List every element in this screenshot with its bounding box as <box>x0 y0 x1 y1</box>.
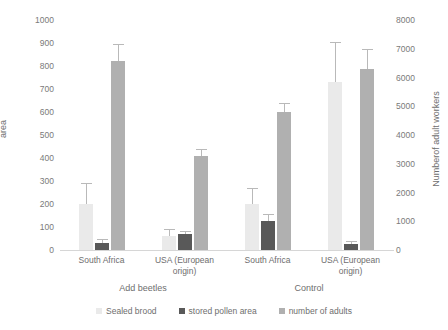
x-category-label: USA (European origin) <box>143 255 227 276</box>
legend-swatch-icon <box>96 308 102 314</box>
x-category-label: USA (European origin) <box>309 255 393 276</box>
y-tick-right: 6000 <box>396 74 415 83</box>
error-bar-cap <box>113 44 124 45</box>
error-bar <box>185 232 186 234</box>
legend-label: stored pollen area <box>189 306 257 316</box>
error-bar <box>169 230 170 236</box>
error-bar-cap <box>97 239 108 240</box>
bar <box>277 112 291 250</box>
bar <box>79 204 93 250</box>
error-bar <box>252 189 253 204</box>
y-tick-left: 800 <box>40 62 54 71</box>
error-bar <box>201 150 202 156</box>
bar <box>261 221 275 250</box>
x-group-label: Add beetles <box>83 283 203 293</box>
chart-legend: Sealed broodstored pollen areanumber of … <box>0 306 448 316</box>
error-bar-cap <box>164 229 175 230</box>
y-tick-left: 100 <box>40 223 54 232</box>
y-tick-right: 7000 <box>396 45 415 54</box>
bar <box>162 236 176 250</box>
bar-chart: area Numberof adult workers 010020030040… <box>0 0 448 330</box>
y-tick-right: 1000 <box>396 217 415 226</box>
legend-item[interactable]: number of adults <box>279 306 352 316</box>
error-bar <box>367 50 368 70</box>
bar-group <box>143 20 226 250</box>
y-tick-right: 8000 <box>396 16 415 25</box>
y-tick-right: 5000 <box>396 102 415 111</box>
x-category-label: South Africa <box>60 255 144 266</box>
legend-swatch-icon <box>179 308 185 314</box>
error-bar <box>118 45 119 61</box>
error-bar-cap <box>196 149 207 150</box>
y-axis-left-title: area <box>0 120 8 138</box>
error-bar-cap <box>346 241 357 242</box>
x-group-label: Control <box>249 283 369 293</box>
y-tick-left: 1000 <box>35 16 54 25</box>
bar-group <box>309 20 392 250</box>
bar <box>194 156 208 250</box>
error-bar-cap <box>81 183 92 184</box>
error-bar-cap <box>263 214 274 215</box>
y-axis-left-ticks: 01002003004005006007008009001000 <box>14 0 54 330</box>
bar-group <box>226 20 309 250</box>
error-bar <box>268 215 269 221</box>
y-tick-left: 500 <box>40 131 54 140</box>
y-tick-left: 200 <box>40 200 54 209</box>
y-axis-right-ticks: 010002000300040005000600070008000 <box>396 0 440 330</box>
legend-item[interactable]: stored pollen area <box>179 306 257 316</box>
y-tick-left: 600 <box>40 108 54 117</box>
plot-area <box>60 20 392 250</box>
y-tick-right: 2000 <box>396 189 415 198</box>
y-tick-left: 0 <box>49 246 54 255</box>
bar-group <box>60 20 143 250</box>
error-bar-cap <box>362 49 373 50</box>
bar <box>178 234 192 250</box>
y-tick-right: 4000 <box>396 131 415 140</box>
error-bar <box>335 43 336 82</box>
error-bar-cap <box>279 103 290 104</box>
y-tick-left: 900 <box>40 39 54 48</box>
y-tick-right: 3000 <box>396 160 415 169</box>
bar <box>111 61 125 250</box>
bar <box>360 69 374 250</box>
bar <box>344 244 358 250</box>
error-bar <box>86 184 87 204</box>
error-bar-cap <box>180 231 191 232</box>
error-bar <box>284 104 285 112</box>
legend-label: Sealed brood <box>106 306 157 316</box>
bar <box>328 82 342 250</box>
error-bar <box>102 240 103 243</box>
y-tick-left: 400 <box>40 154 54 163</box>
legend-swatch-icon <box>279 308 285 314</box>
error-bar-cap <box>247 188 258 189</box>
y-tick-left: 300 <box>40 177 54 186</box>
bar <box>95 243 109 250</box>
bar <box>245 204 259 250</box>
legend-item[interactable]: Sealed brood <box>96 306 157 316</box>
x-category-label: South Africa <box>226 255 310 266</box>
y-tick-right: 0 <box>396 246 401 255</box>
error-bar-cap <box>330 42 341 43</box>
legend-label: number of adults <box>289 306 352 316</box>
axis-baseline <box>60 250 394 251</box>
error-bar <box>351 242 352 244</box>
y-tick-left: 700 <box>40 85 54 94</box>
